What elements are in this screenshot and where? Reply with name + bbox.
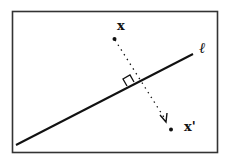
label-x-prime: x' xyxy=(184,119,196,134)
point-x xyxy=(113,37,117,41)
line-l xyxy=(16,54,193,145)
dotted-segment xyxy=(115,40,165,119)
arrowhead-icon xyxy=(160,113,167,122)
label-x: x xyxy=(117,18,125,33)
label-line: ℓ xyxy=(199,39,205,57)
point-x-prime xyxy=(169,128,173,132)
reflection-diagram: x x' ℓ xyxy=(0,0,229,163)
